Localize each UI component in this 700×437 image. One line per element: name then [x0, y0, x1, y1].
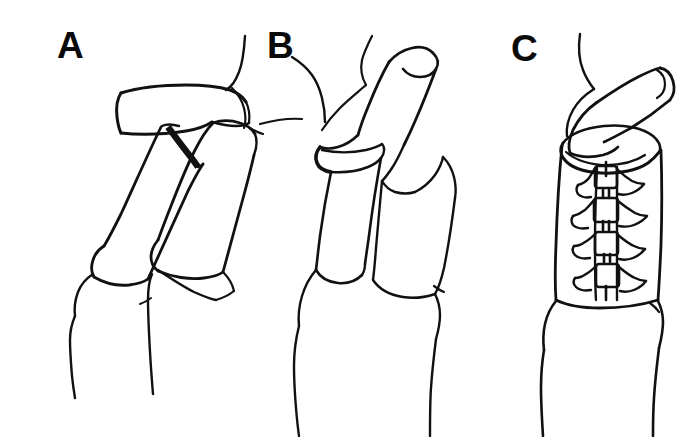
panel-label-c: C — [511, 30, 538, 67]
figure-root: A B C — [0, 0, 700, 437]
caption-fragment — [0, 423, 700, 437]
figure-line-drawing — [0, 0, 700, 437]
panel-label-b: B — [267, 27, 294, 64]
panel-label-a: A — [57, 27, 84, 64]
